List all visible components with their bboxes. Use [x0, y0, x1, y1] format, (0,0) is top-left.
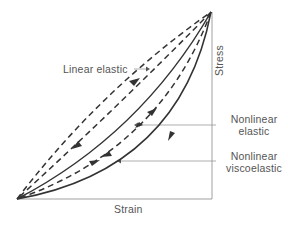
- y-axis-label: Stress: [213, 45, 225, 76]
- linear-elastic-unloading: [17, 12, 211, 199]
- stress-strain-diagram: Linear elastic Nonlinear elastic Nonline…: [0, 0, 288, 226]
- linear-elastic-arrow-down: [72, 141, 82, 149]
- label-nonlinear-elastic: Nonlinear elastic: [224, 113, 284, 137]
- linear-elastic-loading: [17, 12, 211, 199]
- label-nonlinear-elastic-line2: elastic: [224, 125, 284, 137]
- nonlinear-curves: [17, 12, 211, 199]
- nonlinear-viscoelastic-unloading-curve: [17, 12, 211, 199]
- x-axis-label: Strain: [114, 203, 143, 215]
- label-nonlinear-viscoelastic-line1: Nonlinear: [218, 150, 288, 162]
- label-linear-elastic: Linear elastic: [63, 63, 128, 75]
- label-nonlinear-viscoelastic-line2: viscoelastic: [218, 162, 288, 174]
- viscoelastic-unloading-arrow: [168, 131, 175, 141]
- linear-elastic-leader-arrow: [146, 67, 150, 72]
- nonlinear-loading-curve: [17, 12, 211, 199]
- axes: [17, 12, 212, 199]
- nonlinear-elastic-arrow-down: [101, 151, 112, 157]
- label-nonlinear-elastic-line1: Nonlinear: [224, 113, 284, 125]
- linear-elastic-curve: [17, 12, 211, 199]
- label-nonlinear-viscoelastic: Nonlinear viscoelastic: [218, 150, 288, 174]
- nonlinear-elastic-unloading-curve: [17, 12, 211, 199]
